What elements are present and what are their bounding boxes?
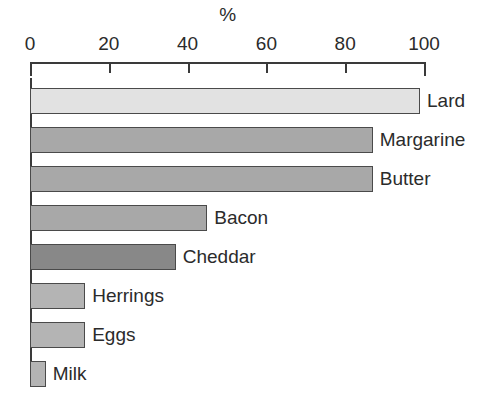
bar-row: Bacon [0,205,499,231]
x-tick-mark [188,62,190,73]
bar-row: Milk [0,361,499,387]
axis-line [30,62,426,64]
x-tick-mark [266,62,268,73]
x-tick-label: 60 [256,33,277,55]
bar-herrings[interactable] [30,283,85,309]
x-tick-label: 100 [408,33,440,55]
x-tick-label: 40 [177,33,198,55]
bar-margarine[interactable] [30,127,373,153]
bar-label-cheddar: Cheddar [183,246,256,268]
x-axis [0,62,499,78]
bar-butter[interactable] [30,166,373,192]
x-tick-mark [30,62,32,76]
bar-row: Herrings [0,283,499,309]
bar-label-margarine: Margarine [380,129,466,151]
bar-label-lard: Lard [427,90,465,112]
bar-label-eggs: Eggs [92,324,135,346]
x-axis-tick-labels: 020406080100 [0,33,499,57]
bar-label-herrings: Herrings [92,285,164,307]
bar-eggs[interactable] [30,322,85,348]
bar-chart: % 020406080100 LardMargarineButterBaconC… [0,0,499,401]
bar-row: Margarine [0,127,499,153]
x-tick-label: 20 [98,33,119,55]
x-tick-mark [345,62,347,73]
bar-row: Eggs [0,322,499,348]
bar-row: Cheddar [0,244,499,270]
axis-title-percent: % [0,4,456,26]
bar-milk[interactable] [30,361,46,387]
x-tick-mark [109,62,111,73]
x-tick-label: 0 [25,33,36,55]
plot-area: LardMargarineButterBaconCheddarHerringsE… [0,78,499,388]
bar-label-milk: Milk [53,363,87,385]
bar-row: Lard [0,88,499,114]
bar-label-bacon: Bacon [214,207,268,229]
bar-lard[interactable] [30,88,420,114]
x-tick-mark [424,62,426,76]
bar-bacon[interactable] [30,205,207,231]
bar-row: Butter [0,166,499,192]
x-tick-label: 80 [335,33,356,55]
bar-cheddar[interactable] [30,244,176,270]
bar-label-butter: Butter [380,168,431,190]
